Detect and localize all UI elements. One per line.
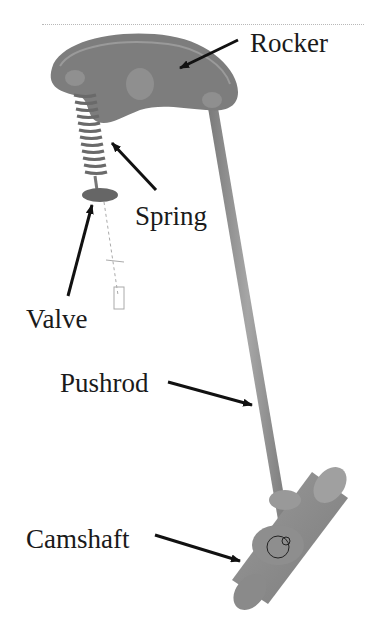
valve-arrow xyxy=(68,205,92,296)
valve-label: Valve xyxy=(26,306,87,333)
pushrod-part xyxy=(208,108,288,520)
camshaft-arrow xyxy=(155,535,240,561)
pushrod-label: Pushrod xyxy=(60,370,149,397)
spring-label: Spring xyxy=(135,203,207,230)
camshaft-part xyxy=(227,461,354,617)
spring-arrow xyxy=(112,143,156,190)
camshaft-label: Camshaft xyxy=(26,526,129,553)
rocker-label: Rocker xyxy=(250,30,328,57)
valve-part xyxy=(82,188,124,309)
pushrod-arrow xyxy=(168,382,252,405)
